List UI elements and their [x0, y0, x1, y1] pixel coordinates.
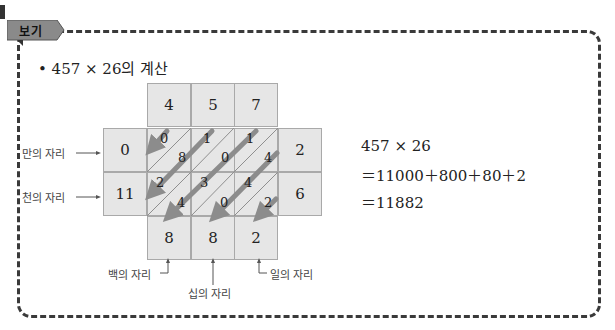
multiplier-digit: 2: [278, 128, 322, 172]
product-cell: [191, 172, 235, 216]
label-ten-thousands: 만의 자리: [22, 145, 66, 161]
multiplicand-digit: 7: [234, 83, 278, 127]
cell-ones-digit: 2: [264, 195, 272, 210]
multiplier-digit: 6: [278, 172, 322, 216]
corner-mark: [0, 5, 5, 19]
label-thousands: 천의 자리: [22, 189, 66, 205]
cell-tens-digit: 1: [203, 131, 211, 146]
cell-ones-digit: 4: [177, 195, 185, 210]
multiplicand-digit: 4: [147, 83, 191, 127]
cell-tens-digit: 1: [246, 131, 254, 146]
carry-ten-thousands: 0: [103, 128, 147, 172]
label-ones: 일의 자리: [270, 266, 314, 282]
badge-label: 보기: [19, 22, 43, 39]
label-tens: 십의 자리: [188, 285, 232, 301]
result-ones: 2: [234, 216, 278, 260]
equation-line-3: ＝11882: [361, 191, 424, 212]
cell-ones-digit: 8: [178, 150, 186, 165]
problem-title: • 457 × 26의 계산: [38, 57, 168, 78]
result-hundreds: 8: [147, 216, 191, 260]
label-hundreds: 백의 자리: [108, 266, 152, 282]
multiplicand-digit: 5: [191, 83, 235, 127]
cell-ones-digit: 0: [221, 150, 229, 165]
carry-thousands: 11: [103, 172, 147, 216]
cell-tens-digit: 4: [244, 175, 252, 190]
example-badge: 보기: [7, 20, 63, 40]
cell-tens-digit: 3: [200, 175, 208, 190]
cell-tens-digit: 0: [160, 131, 168, 146]
equation-line-2: ＝11000＋800＋80＋2: [361, 164, 526, 185]
cell-ones-digit: 0: [220, 195, 228, 210]
equation-line-1: 457 × 26: [361, 137, 431, 155]
cell-ones-digit: 4: [264, 150, 272, 165]
result-tens: 8: [191, 216, 235, 260]
cell-tens-digit: 2: [156, 175, 164, 190]
